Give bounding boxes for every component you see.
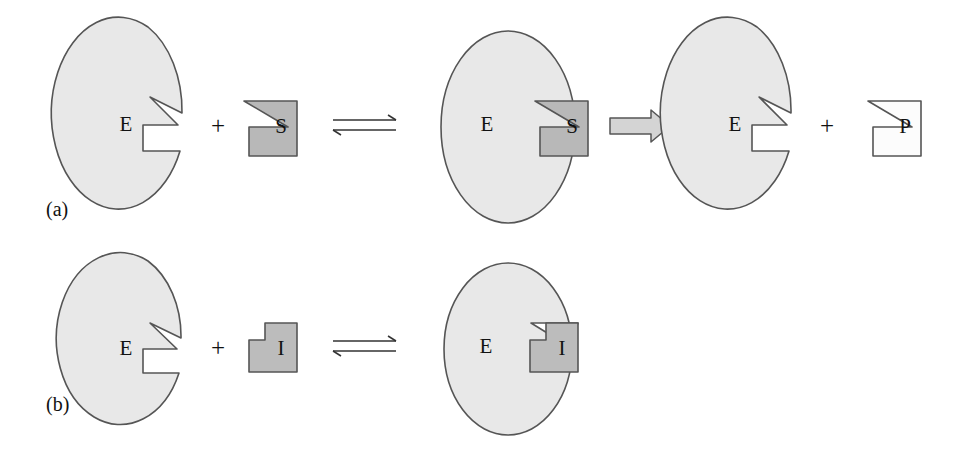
- enzyme-body-shape-2: [660, 17, 791, 209]
- plus-sign-a1: +: [211, 112, 225, 139]
- plus-sign-b1: +: [211, 334, 225, 361]
- es-enzyme-letter: E: [481, 112, 494, 136]
- ei-inhibitor-letter: I: [559, 336, 566, 360]
- enzyme-letter-2: E: [729, 112, 742, 136]
- free-enzyme-a1: E: [51, 17, 182, 209]
- inhibitor-letter: I: [278, 336, 285, 360]
- enzyme-letter: E: [120, 112, 133, 136]
- product-letter: P: [899, 114, 911, 138]
- ei-enzyme-letter: E: [480, 334, 493, 358]
- enzyme-reaction-figure: (a) E + S E S: [0, 0, 960, 457]
- plus-sign-a2: +: [820, 112, 834, 139]
- figure-canvas: (a) E + S E S: [0, 0, 960, 457]
- free-enzyme-a2: E: [660, 17, 791, 209]
- enzyme-letter-3: E: [120, 336, 133, 360]
- panel-b-label: (b): [46, 393, 69, 416]
- substrate-letter: S: [275, 114, 287, 138]
- panel-a-label: (a): [46, 198, 68, 221]
- es-substrate-letter: S: [566, 114, 578, 138]
- free-enzyme-b1: E: [56, 253, 181, 425]
- enzyme-body-shape: [51, 17, 182, 209]
